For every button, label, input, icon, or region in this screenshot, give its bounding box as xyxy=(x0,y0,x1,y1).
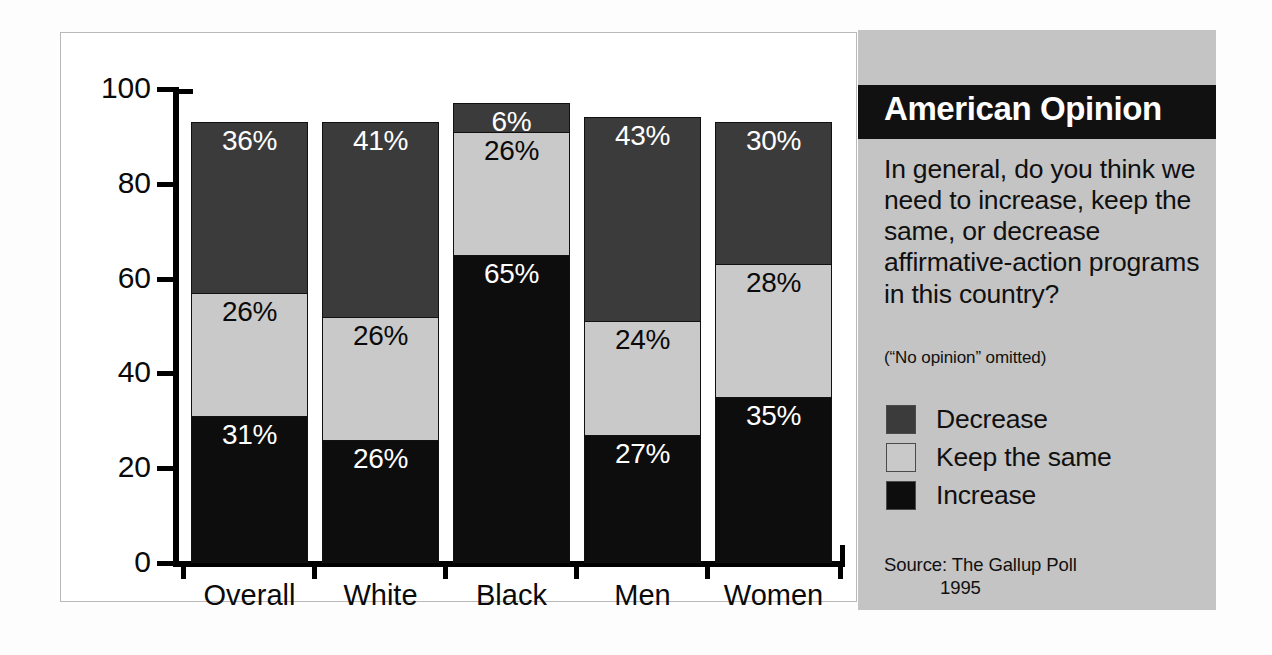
bar-segment-value: 65% xyxy=(454,259,569,288)
y-axis-tick-label: 20 xyxy=(61,452,151,482)
figure-container: 020406080100 36%26%31%41%26%26%6%26%65%4… xyxy=(0,0,1272,655)
bar-segment-increase: 35% xyxy=(715,397,832,563)
y-axis-tick xyxy=(157,371,179,376)
y-axis-tick-label: 60 xyxy=(61,263,151,293)
bar-segment-value: 28% xyxy=(716,268,831,297)
legend-label: Decrease xyxy=(936,406,1048,433)
bar-segment-value: 43% xyxy=(585,121,700,150)
legend-swatch-increase xyxy=(886,481,916,510)
bar-segment-keep-the-same: 26% xyxy=(453,132,570,255)
legend-item: Increase xyxy=(886,476,1206,514)
legend: DecreaseKeep the sameIncrease xyxy=(886,400,1206,514)
x-axis-tick xyxy=(838,561,843,579)
bar-segment-value: 6% xyxy=(454,107,569,131)
x-axis-tick xyxy=(574,561,579,579)
y-axis-tick-label: 40 xyxy=(61,357,151,387)
y-axis-line xyxy=(173,89,179,567)
legend-label: Increase xyxy=(936,482,1036,509)
legend-swatch-keep-the-same xyxy=(886,443,916,472)
bar-segment-decrease: 36% xyxy=(191,122,308,293)
bar-segment-decrease: 41% xyxy=(322,122,439,316)
source-year: 1995 xyxy=(940,576,1077,599)
bar-segment-decrease: 43% xyxy=(584,117,701,321)
bar-segment-value: 36% xyxy=(192,126,307,155)
y-axis-tick-label: 0 xyxy=(61,547,151,577)
y-axis-tick-label: 100 xyxy=(61,73,151,103)
legend-swatch-decrease xyxy=(886,405,916,434)
bar-segment-decrease: 6% xyxy=(453,103,570,131)
source-label: Source: The Gallup Poll xyxy=(884,554,1077,575)
bar-segment-value: 26% xyxy=(323,321,438,350)
x-axis-tick xyxy=(705,561,710,579)
bar-segment-decrease: 30% xyxy=(715,122,832,264)
poll-note: (“No opinion” omitted) xyxy=(884,348,1046,368)
american-opinion-panel: American Opinion In general, do you thin… xyxy=(858,30,1216,610)
bar-segment-value: 31% xyxy=(192,420,307,449)
bar-black: 6%26%65% xyxy=(453,103,570,563)
bar-segment-keep-the-same: 26% xyxy=(191,293,308,416)
y-axis-tick xyxy=(157,561,179,566)
bar-segment-value: 26% xyxy=(323,444,438,473)
bar-segment-value: 27% xyxy=(585,439,700,468)
bar-segment-increase: 27% xyxy=(584,435,701,563)
bar-men: 43%24%27% xyxy=(584,117,701,563)
bar-segment-value: 26% xyxy=(192,297,307,326)
x-axis-tick xyxy=(312,561,317,579)
bar-women: 30%28%35% xyxy=(715,122,832,563)
legend-label: Keep the same xyxy=(936,444,1112,471)
poll-question: In general, do you think we need to incr… xyxy=(884,154,1204,310)
bar-segment-keep-the-same: 24% xyxy=(584,321,701,435)
y-axis-tick-label: 80 xyxy=(61,168,151,198)
source-credit: Source: The Gallup Poll 1995 xyxy=(884,553,1077,599)
bar-segment-increase: 65% xyxy=(453,255,570,563)
bar-segment-value: 35% xyxy=(716,401,831,430)
legend-item: Decrease xyxy=(886,400,1206,438)
x-axis-tick xyxy=(181,561,186,579)
y-axis-tick xyxy=(157,87,179,92)
y-axis-tick xyxy=(157,277,179,282)
bar-segment-increase: 31% xyxy=(191,416,308,563)
plot-area: 020406080100 36%26%31%41%26%26%6%26%65%4… xyxy=(61,33,858,603)
bar-overall: 36%26%31% xyxy=(191,122,308,563)
bar-segment-value: 41% xyxy=(323,126,438,155)
x-axis-label-women: Women xyxy=(693,581,854,610)
bar-segment-keep-the-same: 26% xyxy=(322,317,439,440)
y-axis-tick xyxy=(157,466,179,471)
bar-segment-value: 24% xyxy=(585,325,700,354)
bar-white: 41%26%26% xyxy=(322,122,439,563)
x-axis-tick xyxy=(443,561,448,579)
legend-item: Keep the same xyxy=(886,438,1206,476)
bar-segment-increase: 26% xyxy=(322,440,439,563)
bar-segment-keep-the-same: 28% xyxy=(715,264,832,397)
panel-title: American Opinion xyxy=(884,92,1162,125)
y-axis-tick xyxy=(157,182,179,187)
bar-segment-value: 26% xyxy=(454,136,569,165)
bar-segment-value: 30% xyxy=(716,126,831,155)
chart-panel: 020406080100 36%26%31%41%26%26%6%26%65%4… xyxy=(60,32,857,602)
